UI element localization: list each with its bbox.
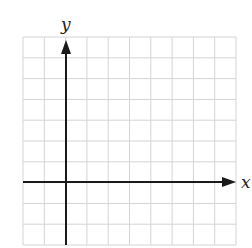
y-axis-label: y xyxy=(60,14,71,34)
grid-lines xyxy=(23,37,236,245)
coordinate-plane: x y xyxy=(0,0,252,248)
x-axis-arrow-icon xyxy=(222,177,236,187)
x-axis-label: x xyxy=(241,172,251,192)
y-axis-arrow-icon xyxy=(61,40,71,54)
